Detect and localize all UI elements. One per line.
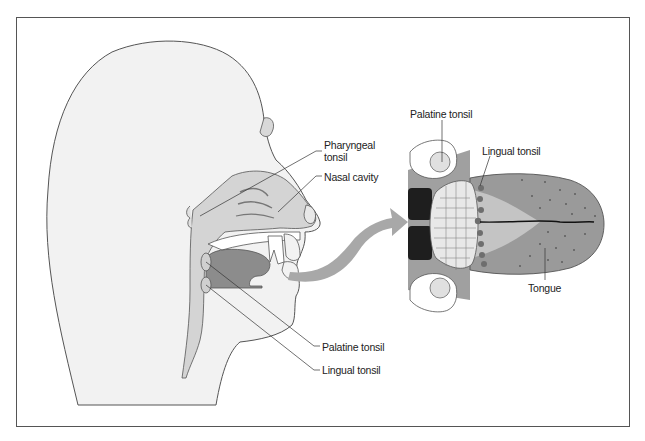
tongue-sagittal bbox=[201, 249, 270, 293]
label-lingual-tonsil-tongue: Lingual tonsil bbox=[482, 145, 541, 157]
label-tongue: Tongue bbox=[528, 282, 561, 294]
label-nasal-cavity: Nasal cavity bbox=[324, 171, 378, 183]
label-palatine-tonsil-head: Palatine tonsil bbox=[322, 341, 384, 353]
label-palatine-tonsil-tongue: Palatine tonsil bbox=[410, 108, 472, 120]
label-pharyngeal-tonsil-line2: tonsil bbox=[324, 151, 375, 163]
label-pharyngeal-tonsil-line1: Pharyngeal bbox=[324, 139, 375, 151]
tongue-superior bbox=[408, 140, 604, 312]
label-lingual-tonsil-head: Lingual tonsil bbox=[322, 364, 381, 376]
label-pharyngeal-tonsil: Pharyngeal tonsil bbox=[324, 139, 375, 163]
